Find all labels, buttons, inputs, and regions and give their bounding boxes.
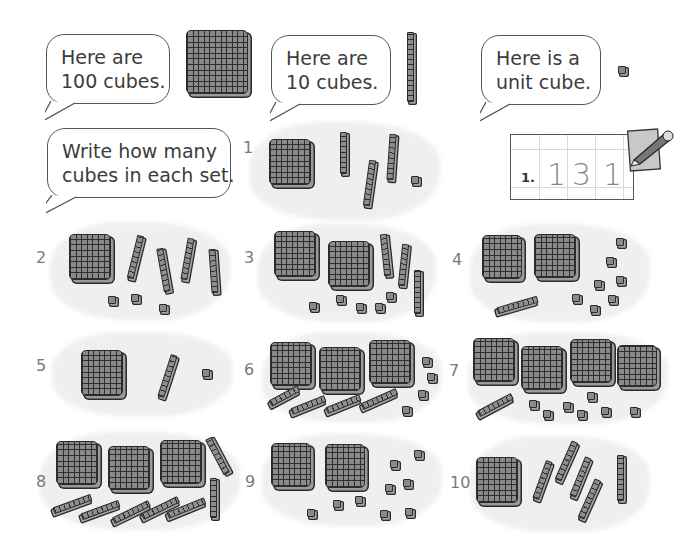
unit-cube-icon: [572, 294, 580, 302]
unit-cube-icon: [386, 292, 394, 300]
hundred-block-icon: [274, 231, 316, 277]
unit-cube-icon: [108, 296, 116, 304]
hundred-block-icon: [56, 441, 98, 485]
unit-cube-icon: [375, 303, 383, 311]
bubble-tail-icon: [46, 195, 86, 219]
unit-cube-icon: [616, 276, 624, 284]
hundred-block-icon: [328, 241, 370, 287]
example-answer-box: 1. 1 3 1: [510, 134, 634, 200]
set-number: 1: [243, 138, 253, 157]
unit-cube-icon: [563, 402, 571, 410]
hundred-block-icon: [271, 443, 311, 487]
hundred-block-icon: [81, 350, 123, 396]
instruction-line2: cubes in each set.: [62, 163, 218, 187]
example-digit-hundreds: 1: [547, 160, 566, 190]
hundred-block-icon: [476, 457, 518, 503]
unit-cube-icon: [529, 400, 537, 408]
unit-cube-icon: [307, 509, 315, 517]
ten-rod-icon: [340, 132, 347, 174]
hundred-block-icon: [69, 234, 111, 280]
ten-rod-icon: [407, 32, 414, 102]
bubble-text-line2: 100 cubes.: [61, 69, 157, 93]
unit-cube-icon: [422, 357, 430, 365]
hundred-block-icon: [570, 339, 612, 383]
example-digit-tens: 3: [572, 160, 591, 190]
unit-cube-icon: [577, 410, 585, 418]
set-number: 2: [36, 248, 46, 267]
unit-cube-icon: [606, 257, 614, 265]
unit-cube-icon: [405, 508, 413, 516]
hundred-block-icon: [186, 30, 248, 94]
pencil-paper-icon: [626, 124, 680, 176]
instruction-line1: Write how many: [62, 139, 218, 163]
bubble-text-line2: 10 cubes.: [286, 70, 378, 94]
unit-cube-icon: [616, 238, 624, 246]
speech-bubble-hundred: Here are 100 cubes.: [46, 34, 170, 104]
hundred-block-icon: [319, 347, 361, 391]
hundred-block-icon: [369, 340, 411, 384]
unit-cube-icon: [608, 295, 616, 303]
hundred-block-icon: [325, 444, 365, 488]
set-number: 7: [449, 361, 459, 380]
hundred-block-icon: [521, 346, 563, 390]
example-digit-units: 1: [603, 160, 622, 190]
unit-cube-icon: [385, 484, 393, 492]
set-number: 4: [452, 250, 462, 269]
instruction-bubble: Write how many cubes in each set.: [47, 128, 231, 198]
unit-cube-icon: [590, 305, 598, 313]
unit-cube-icon: [355, 496, 363, 504]
ten-rod-icon: [617, 455, 624, 501]
hundred-block-icon: [482, 235, 522, 279]
speech-bubble-ten: Here are 10 cubes.: [271, 35, 391, 105]
set-number: 10: [450, 473, 470, 492]
unit-cube-icon: [594, 280, 602, 288]
bubble-text-line1: Here are: [286, 46, 378, 70]
set-number: 9: [245, 472, 255, 491]
unit-cube-icon: [418, 390, 426, 398]
unit-cube-icon: [414, 450, 422, 458]
unit-cube-icon: [202, 369, 210, 377]
unit-cube-icon: [380, 510, 388, 518]
unit-cube-icon: [403, 479, 411, 487]
hundred-block-icon: [108, 446, 150, 490]
bubble-text-line1: Here are: [61, 45, 157, 69]
unit-cube-icon: [630, 407, 638, 415]
hundred-block-icon: [617, 345, 657, 387]
unit-cube-icon: [333, 500, 341, 508]
unit-cube-icon: [601, 407, 609, 415]
example-label: 1.: [521, 170, 535, 185]
unit-cube-icon: [390, 460, 398, 468]
hundred-block-icon: [269, 139, 311, 185]
unit-cube-icon: [543, 410, 551, 418]
hundred-block-icon: [534, 234, 576, 278]
bubble-tail-icon: [45, 101, 85, 125]
unit-cube-icon: [336, 295, 344, 303]
speech-bubble-unit: Here is a unit cube.: [481, 35, 601, 105]
unit-cube-icon: [402, 406, 410, 414]
unit-cube-icon: [159, 304, 167, 312]
bubble-tail-icon: [480, 102, 520, 126]
hundred-block-icon: [270, 342, 312, 386]
hundred-block-icon: [160, 440, 202, 484]
set-number: 6: [244, 360, 254, 379]
unit-cube-icon: [618, 66, 626, 74]
unit-cube-icon: [309, 302, 317, 310]
ten-rod-icon: [414, 270, 421, 314]
unit-cube-icon: [411, 176, 419, 184]
bubble-text-line1: Here is a: [496, 46, 588, 70]
unit-cube-icon: [427, 373, 435, 381]
set-number: 8: [36, 472, 46, 491]
set-number: 3: [244, 248, 254, 267]
set-number: 5: [36, 356, 46, 375]
unit-cube-icon: [587, 392, 595, 400]
unit-cube-icon: [356, 303, 364, 311]
hundred-block-icon: [473, 338, 515, 382]
unit-cube-icon: [131, 294, 139, 302]
ten-rod-icon: [210, 478, 217, 518]
bubble-text-line2: unit cube.: [496, 70, 588, 94]
